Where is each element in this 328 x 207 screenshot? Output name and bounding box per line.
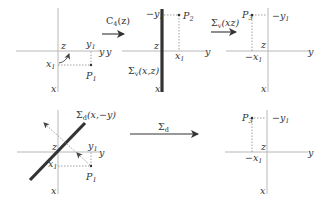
label-neg-x1: −x1 [245,152,262,165]
panel-1: z y1 y x1 P1 x [16,8,105,94]
point-p2-dot [178,14,181,17]
mirror-label-sigma-d: Σd(x,−y) [76,109,116,122]
operation-sigma-d: Σd [130,121,198,134]
op-sigma-v-xz-label: Σv(xz) [211,17,239,30]
label-y1: y1 [85,38,96,51]
label-x-axis: x [51,185,57,196]
label-neg-x1: −x1 [245,51,262,64]
point-p1-dot [90,64,92,66]
op-sigma-d-label: Σd [158,121,169,134]
panel-5: P3 −y1 z −x1 y x [225,110,314,196]
label-x-axis: x [260,185,266,196]
label-y-axis: y [307,147,314,158]
label-x1: x1 [48,158,58,171]
projection-lines [58,51,91,65]
label-z: z [260,141,267,152]
label-y-axis: y [204,46,211,57]
label-neg-y1: −y1 [272,10,289,23]
label-x1: x1 [46,58,56,71]
panel-3: P3 −y1 z −x1 y x [226,8,314,94]
projection-lines [58,152,91,166]
point-p1-dot [90,165,92,167]
label-y-axis-left: y [105,46,112,57]
label-p1: P1 [85,171,97,184]
label-y-axis: y [307,46,314,57]
mirror-label-sigma-v-xz: Σv(x,z) [128,65,159,78]
label-z: z [260,39,267,50]
panel-4: Σd(x,−y) z y1 y x1 P1 x [17,109,116,196]
label-x1: x1 [175,50,185,63]
label-z: z [51,141,58,152]
label-y1: y1 [87,140,98,153]
label-p3: P3 [241,9,253,22]
label-y-axis: y [98,46,105,57]
operation-c4z: C4(z) [102,15,130,34]
symmetry-diagram: z y1 y x1 P1 x C4(z) −y1 P2 z x1 y y Σv(… [0,0,328,207]
op-c4z-label: C4(z) [106,15,130,28]
reflection-midpoint-arrow-icon [77,153,80,156]
operation-sigma-v-xz: Σv(xz) [211,17,239,32]
label-x-axis: x [51,83,57,94]
projection-lines [164,15,179,51]
label-z: z [60,40,67,51]
label-p3: P3 [241,112,253,125]
label-y-axis: y [98,147,105,158]
rotation-arrow-icon [59,54,69,63]
label-z: z [153,40,160,51]
label-p1: P1 [85,70,97,83]
label-neg-y1: −y1 [272,112,289,125]
label-x-axis: x [155,83,161,94]
label-p2: P2 [182,10,194,23]
label-x-axis: x [261,83,267,94]
